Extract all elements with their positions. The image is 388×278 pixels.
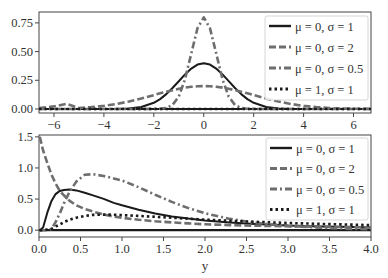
bottom-x-tick-label: 1.0 — [114, 242, 130, 256]
top-x-tick-label: 6 — [350, 118, 356, 132]
bottom-x-tick-label: 3.0 — [280, 242, 296, 256]
top-legend: μ = 0, σ = 1μ = 0, σ = 2μ = 0, σ = 0.5μ … — [265, 16, 368, 100]
bottom-legend: μ = 0, σ = 1μ = 0, σ = 2μ = 0, σ = 0.5μ … — [266, 138, 368, 220]
bottom-y-axis-ticks: 0.00.51.01.5 — [17, 130, 39, 237]
bottom-x-tick-label: 2.0 — [197, 242, 213, 256]
chart-figure: −6−4−20246 0.000.250.500.75 μ = 0, σ = 1… — [0, 0, 388, 278]
top-x-tick-label: 0 — [201, 118, 207, 132]
bottom-x-tick-label: 1.5 — [156, 242, 172, 256]
bottom-legend-label: μ = 0, σ = 2 — [296, 162, 355, 176]
top-x-tick-label: 2 — [251, 118, 257, 132]
bottom-x-tick-label: 0.0 — [31, 242, 47, 256]
top-x-axis-ticks: −6−4−20246 — [47, 113, 356, 132]
bottom-x-tick-label: 2.5 — [239, 242, 255, 256]
bottom-y-tick-label: 1.0 — [17, 161, 33, 175]
top-x-tick-label: −2 — [147, 118, 160, 132]
top-x-tick-label: −6 — [47, 118, 60, 132]
top-y-tick-label: 0.00 — [11, 102, 33, 116]
bottom-y-tick-label: 0.5 — [17, 192, 33, 206]
top-legend-label: μ = 1, σ = 1 — [295, 83, 354, 97]
bottom-x-tick-label: 4.0 — [363, 242, 379, 256]
bottom-y-tick-label: 1.5 — [17, 130, 33, 144]
bottom-legend-label: μ = 0, σ = 0.5 — [296, 183, 364, 197]
top-y-axis-ticks: 0.000.250.500.75 — [11, 16, 39, 116]
bottom-x-tick-label: 3.5 — [322, 242, 338, 256]
bottom-y-tick-label: 0.0 — [17, 223, 33, 237]
bottom-legend-label: μ = 1, σ = 1 — [296, 203, 355, 217]
top-legend-label: μ = 0, σ = 1 — [295, 20, 354, 34]
top-y-tick-label: 0.25 — [11, 73, 33, 87]
top-legend-label: μ = 0, σ = 0.5 — [295, 62, 363, 76]
top-legend-label: μ = 0, σ = 2 — [295, 41, 354, 55]
top-y-tick-label: 0.50 — [11, 45, 33, 59]
top-panel: −6−4−20246 0.000.250.500.75 μ = 0, σ = 1… — [11, 12, 371, 132]
top-x-tick-label: −4 — [97, 118, 111, 132]
bottom-panel: 0.00.51.01.52.02.53.03.54.0 0.00.51.01.5… — [17, 130, 378, 273]
top-x-tick-label: 4 — [300, 118, 307, 132]
bottom-x-axis-ticks: 0.00.51.01.52.02.53.03.54.0 — [31, 237, 379, 256]
top-y-tick-label: 0.75 — [11, 16, 33, 30]
bottom-legend-label: μ = 0, σ = 1 — [296, 142, 355, 156]
x-axis-label: y — [202, 258, 209, 273]
bottom-x-tick-label: 0.5 — [73, 242, 89, 256]
